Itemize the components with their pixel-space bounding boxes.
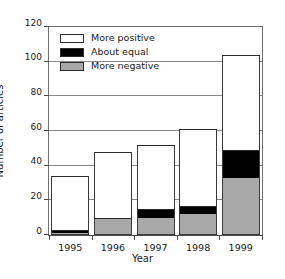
stacked-bar-chart: Number of articles 020406080100120199519… [0,0,285,279]
bar-segment-1999-more-positive [222,55,260,150]
bar-segment-1996-more-negative [94,219,132,235]
bar-segment-1995-about-equal [51,230,89,233]
bar-segment-1997-about-equal [137,209,175,218]
y-axis-tick-label: 0 [36,226,42,235]
y-axis-tick [44,130,49,131]
y-axis-title: Number of articles [0,85,5,178]
legend-item-more-positive: More positive [60,31,159,45]
x-axis-tick [262,235,263,240]
legend-item-about-equal: About equal [60,45,159,59]
bar-segment-1995-more-negative [51,233,89,235]
bar-1995 [51,176,89,235]
bar-segment-1996-more-positive [94,152,132,218]
y-axis-tick-label: 80 [31,87,42,96]
legend-label-more-negative: More negative [91,61,159,71]
y-axis-tick [44,61,49,62]
scan-edge-artifact [0,0,285,10]
x-axis-tick-label: 1999 [229,243,253,253]
y-axis-tick-label: 20 [31,191,42,200]
y-axis-tick-label: 120 [25,18,42,27]
y-axis-tick [44,165,49,166]
legend-swatch-about-equal [60,48,84,57]
x-axis-tick [49,235,50,240]
bar-segment-1996-about-equal [94,218,132,220]
x-axis-title: Year [0,253,285,264]
bar-segment-1998-more-negative [179,214,217,235]
x-axis-tick [134,235,135,240]
bar-segment-1998-more-positive [179,129,217,205]
legend-label-more-positive: More positive [91,33,155,43]
x-axis-tick-label: 1996 [101,243,125,253]
x-axis-tick-label: 1995 [58,243,82,253]
bar-segment-1998-about-equal [179,206,217,215]
x-axis-tick [92,235,93,240]
bar-segment-1999-more-negative [222,178,260,235]
y-axis-tick-label: 40 [31,157,42,166]
legend-item-more-negative: More negative [60,59,159,73]
legend-swatch-more-positive [60,34,84,43]
bar-1997 [137,145,175,235]
legend-swatch-more-negative [60,62,84,71]
bar-segment-1997-more-positive [137,145,175,209]
bar-segment-1995-more-positive [51,176,89,230]
bar-segment-1999-about-equal [222,150,260,178]
bar-1999 [222,55,260,235]
y-axis-tick-label: 60 [31,122,42,131]
y-axis-tick [44,199,49,200]
legend-label-about-equal: About equal [91,47,148,57]
y-axis-tick [44,95,49,96]
x-axis-tick [219,235,220,240]
x-axis-tick-label: 1997 [143,243,167,253]
y-axis-tick [44,26,49,27]
x-axis-tick-label: 1998 [186,243,210,253]
bar-1996 [94,152,132,235]
y-axis-tick-label: 100 [25,53,42,62]
bar-1998 [179,129,217,235]
bar-segment-1997-more-negative [137,218,175,235]
legend: More positive About equal More negative [60,31,159,73]
x-axis-tick [177,235,178,240]
